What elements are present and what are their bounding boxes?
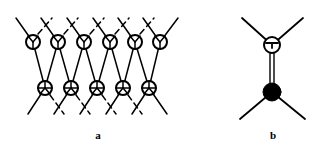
diagram-canvas: [0, 0, 333, 149]
crossed-circle-vertex: [38, 81, 52, 95]
crossed-circle-vertex: [116, 81, 130, 95]
open-circle-y-vertex: [153, 35, 167, 49]
open-circle-y-vertex: [77, 35, 91, 49]
open-circle-y-vertex: [51, 35, 65, 49]
panel-b-caption: b: [263, 130, 283, 141]
crossed-circle-vertex: [90, 81, 104, 95]
figure-background: [0, 0, 333, 149]
open-circle-y-vertex: [103, 35, 117, 49]
open-circle-y-vertex: [26, 35, 40, 49]
figure-container: a b: [0, 0, 333, 149]
open-circle-vertex: [264, 37, 280, 53]
filled-circle-vertex: [263, 83, 281, 101]
panel-a-caption: a: [88, 130, 108, 141]
crossed-circle-vertex: [142, 81, 156, 95]
crossed-circle-vertex: [64, 81, 78, 95]
open-circle-y-vertex: [128, 35, 142, 49]
